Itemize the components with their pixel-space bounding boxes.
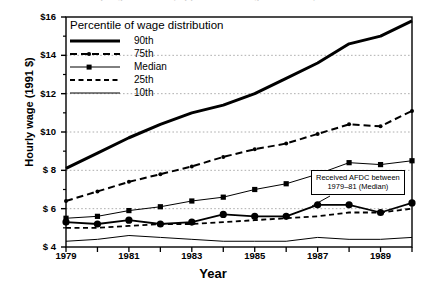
- chart-title: Hourly wages of women, by percentile of …: [0, 0, 426, 1]
- legend-item-90th: 90th: [68, 34, 248, 47]
- legend-swatch-median-icon: [68, 60, 124, 73]
- legend-label: 25th: [134, 74, 153, 85]
- x-tick-label: 1981: [118, 250, 139, 261]
- x-tick-label: 1979: [55, 250, 76, 261]
- y-tick-label: $16: [22, 12, 56, 21]
- legend-item-10th: 10th: [68, 86, 248, 99]
- legend-item-25th: 25th: [68, 73, 248, 86]
- x-axis-tick-labels: 197919811983198519871989: [0, 250, 426, 264]
- legend-swatch-75th-icon: [68, 47, 124, 60]
- y-tick-label: $12: [22, 89, 56, 98]
- annotation-line-1: Received AFDC between: [316, 173, 400, 182]
- series-10th: [66, 236, 412, 242]
- y-axis-tick-labels: $16$14$12$10$ 8$ 6$ 4: [18, 0, 56, 289]
- chart-legend: Percentile of wage distribution 90th75th…: [68, 19, 248, 99]
- chart-figure: Hourly wages of women, by percentile of …: [0, 0, 426, 289]
- x-tick-label: 1985: [244, 250, 265, 261]
- legend-swatch-25th-icon: [68, 73, 124, 86]
- x-tick-label: 1987: [307, 250, 328, 261]
- series-25th: [66, 209, 412, 228]
- x-axis-label: Year: [0, 266, 426, 281]
- legend-swatch-10th-icon: [68, 86, 124, 99]
- legend-rows: 90th75thMedian25th10th: [68, 34, 248, 99]
- legend-label: Median: [134, 61, 167, 72]
- legend-label: 75th: [134, 48, 153, 59]
- legend-item-75th: 75th: [68, 47, 248, 60]
- y-tick-label: $14: [22, 50, 56, 59]
- legend-label: 10th: [134, 87, 153, 98]
- y-tick-label: $10: [22, 127, 56, 136]
- legend-item-median: Median: [68, 60, 248, 73]
- x-tick-label: 1983: [181, 250, 202, 261]
- legend-swatch-90th-icon: [68, 34, 124, 47]
- y-tick-label: $ 6: [22, 204, 56, 213]
- annotation-callout: Received AFDC between 1979–81 (Median): [311, 170, 405, 195]
- legend-title: Percentile of wage distribution: [70, 19, 248, 31]
- legend-label: 90th: [134, 35, 153, 46]
- x-tick-label: 1989: [370, 250, 391, 261]
- y-tick-label: $ 8: [22, 165, 56, 174]
- annotation-line-2: 1979–81 (Median): [316, 182, 400, 191]
